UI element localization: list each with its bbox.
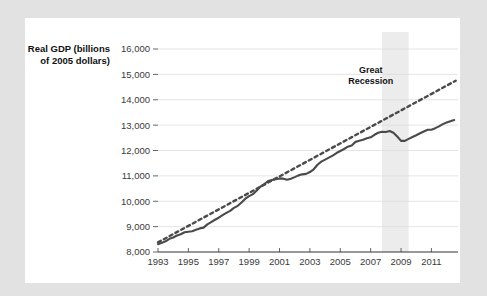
y-axis-title-line2: of 2005 dollars) (40, 55, 110, 66)
y-tick-label: 11,000 (122, 170, 150, 181)
y-axis-title: Real GDP (billions of 2005 dollars) (28, 43, 110, 66)
recession-band (382, 32, 409, 252)
y-tick-label: 10,000 (121, 196, 150, 207)
data-series (158, 81, 456, 244)
y-tick-label: 16,000 (121, 43, 150, 54)
y-tick-label: 15,000 (121, 69, 150, 80)
figure-card: 8,0009,00010,00011,00012,00013,00014,000… (25, 18, 460, 283)
y-tick-label: 14,000 (121, 94, 150, 105)
x-tick-label: 2011 (421, 256, 441, 267)
y-tick-label: 9,000 (126, 221, 150, 232)
y-tick-label: 8,000 (126, 246, 150, 257)
y-tick-label: 13,000 (121, 120, 150, 131)
real-gdp-series (158, 120, 454, 244)
x-tick-label: 2007 (360, 256, 381, 267)
x-tick-label: 1999 (239, 256, 260, 267)
y-tick-label: 12,000 (121, 145, 150, 156)
great-recession-label-line1: Great (359, 65, 383, 75)
y-axis-title-line1: Real GDP (billions (28, 43, 110, 54)
x-tick-label: 2001 (269, 256, 290, 267)
y-axis-ticks: 8,0009,00010,00011,00012,00013,00014,000… (121, 43, 158, 257)
x-tick-label: 1997 (208, 256, 229, 267)
real-gdp-line-chart: 8,0009,00010,00011,00012,00013,00014,000… (25, 18, 460, 283)
great-recession-label-line2: Recession (348, 76, 393, 86)
trend-line-series (158, 81, 456, 243)
x-tick-label: 2005 (330, 256, 351, 267)
x-tick-label: 2003 (299, 256, 320, 267)
x-tick-label: 1993 (147, 256, 168, 267)
x-tick-label: 2009 (390, 256, 411, 267)
x-tick-label: 1995 (178, 256, 199, 267)
